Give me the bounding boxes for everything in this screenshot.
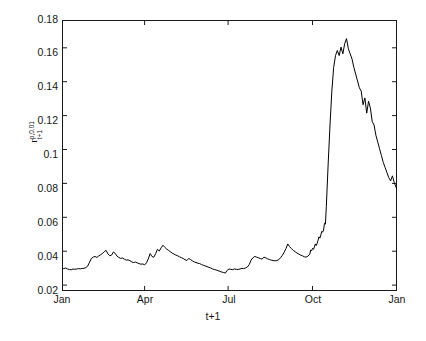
x-axis-ticks <box>145 20 313 291</box>
x-tick-label: Jan <box>39 294 85 305</box>
y-tick-label: 0.08 <box>22 183 58 194</box>
y-axis-label-subscript: t+1 <box>36 130 43 139</box>
y-axis-label-base: r <box>27 139 39 143</box>
x-tick-label: Jul <box>206 294 252 305</box>
data-line-series-1 <box>62 39 397 273</box>
x-axis-label: t+1 <box>0 310 426 322</box>
y-axis-label: rp,0.01t+1 <box>27 106 39 176</box>
y-tick-label: 0.18 <box>22 14 58 25</box>
y-axis-ticks <box>62 48 397 285</box>
y-tick-label: 0.14 <box>22 81 58 92</box>
y-tick-label: 0.04 <box>22 251 58 262</box>
figure: 0.02 0.04 0.06 0.08 0.1 0.12 0.14 0.16 0… <box>0 0 426 341</box>
y-tick-label: 0.16 <box>22 47 58 58</box>
y-axis-label-superscript: p,0.01 <box>28 121 35 139</box>
data-line-container <box>62 20 397 291</box>
x-tick-label: Apr <box>122 294 168 305</box>
line-chart-svg <box>62 20 397 291</box>
y-tick-label: 0.06 <box>22 217 58 228</box>
x-tick-label: Oct <box>290 294 336 305</box>
x-tick-label: Jan <box>374 294 420 305</box>
